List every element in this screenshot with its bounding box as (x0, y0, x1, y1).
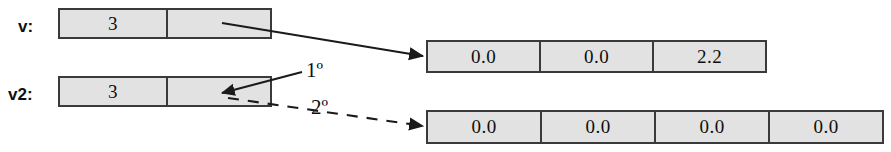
v2-length-cell: 3 (60, 78, 168, 105)
array-bottom-cell-3: 0.0 (770, 112, 882, 142)
array-top-cell-1: 0.0 (541, 42, 654, 71)
v-reference-cell (168, 10, 270, 37)
diagram-canvas: v: 3 v2: 3 0.0 0.0 2.2 0.0 0.0 0.0 0.0 1… (0, 0, 891, 152)
array-bottom-cell-1: 0.0 (542, 112, 656, 142)
array-bottom-cell-0: 0.0 (428, 112, 542, 142)
array-bottom-box: 0.0 0.0 0.0 0.0 (426, 110, 884, 144)
v2-record-box: 3 (58, 76, 272, 107)
variable-label-v: v: (18, 18, 33, 35)
array-top-box: 0.0 0.0 2.2 (426, 40, 767, 73)
v-record-box: 3 (58, 8, 272, 39)
ordinal-second-label: 2º (311, 97, 328, 118)
v-length-cell: 3 (60, 10, 168, 37)
variable-label-v2: v2: (8, 86, 33, 103)
ordinal-first-label: 1º (306, 60, 323, 81)
array-bottom-cell-2: 0.0 (656, 112, 770, 142)
v2-reference-cell (168, 78, 270, 105)
array-top-cell-2: 2.2 (654, 42, 765, 71)
array-top-cell-0: 0.0 (428, 42, 541, 71)
